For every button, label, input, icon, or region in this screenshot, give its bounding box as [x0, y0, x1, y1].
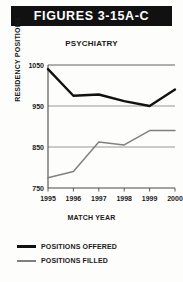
gridlines [48, 65, 175, 147]
line-chart-svg: 7508509501050 199519961997199819992000 [0, 55, 183, 205]
x-tick-label: 1998 [116, 195, 132, 202]
plot-area: 7508509501050 199519961997199819992000 [0, 55, 183, 205]
y-tick-label: 750 [32, 185, 44, 192]
x-axis-label: MATCH YEAR [0, 214, 183, 221]
legend-swatch-offered [17, 245, 36, 248]
legend: POSITIONS OFFERED POSITIONS FILLED [17, 243, 117, 264]
figure-banner-title: FIGURES 3-15A-C [34, 9, 149, 23]
legend-swatch-filled [17, 260, 36, 262]
x-tick-label: 2000 [167, 195, 183, 202]
x-tick-labels: 199519961997199819992000 [40, 195, 183, 202]
y-tick-label: 850 [32, 144, 44, 151]
series-line-positions-filled [48, 131, 175, 178]
x-tick-label: 1999 [142, 195, 158, 202]
y-tick-label: 950 [32, 103, 44, 110]
series-line-positions-offered [48, 69, 175, 106]
legend-label-offered: POSITIONS OFFERED [41, 243, 117, 250]
figure-banner: FIGURES 3-15A-C [11, 6, 172, 26]
figure-panel: FIGURES 3-15A-C PSYCHIATRY RESIDENCY POS… [0, 0, 183, 282]
legend-label-filled: POSITIONS FILLED [41, 257, 108, 264]
legend-item-positions-offered: POSITIONS OFFERED [17, 243, 117, 250]
x-tick-label: 1997 [91, 195, 107, 202]
y-tick-labels: 7508509501050 [28, 62, 44, 192]
legend-item-positions-filled: POSITIONS FILLED [17, 257, 117, 264]
x-tick-label: 1995 [40, 195, 56, 202]
x-tick-label: 1996 [66, 195, 82, 202]
y-tick-label: 1050 [28, 62, 44, 69]
chart-title: PSYCHIATRY [0, 39, 183, 48]
axis-lines [48, 65, 175, 188]
data-series [48, 69, 175, 178]
